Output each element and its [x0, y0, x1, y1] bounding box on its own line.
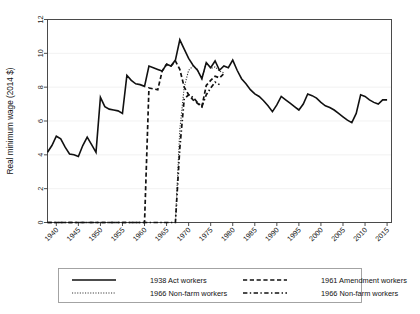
x-tick-label: 1985	[241, 226, 259, 244]
series-line-0	[48, 40, 388, 157]
chart-legend: 1938 Act workers1961 Amendment workers19…	[59, 269, 408, 303]
y-axis-ticks: 024681012	[36, 16, 47, 225]
x-axis-ticks: 1940194519501955196019651970197519801985…	[43, 223, 391, 244]
y-axis-title: Real minimum wage (2014 $)	[6, 67, 15, 174]
y-tick-label: 12	[36, 16, 45, 24]
legend-label-1: 1961 Amendment workers	[321, 276, 407, 285]
legend-label-0: 1938 Act workers	[150, 276, 207, 285]
x-tick-label: 1965	[153, 226, 171, 244]
x-tick-label: 1940	[43, 226, 61, 244]
x-tick-label: 1975	[197, 226, 215, 244]
y-tick-label: 8	[36, 85, 45, 89]
chart-figure: 024681012 194019451950195519601965197019…	[0, 0, 420, 314]
x-tick-label: 1955	[109, 226, 127, 244]
x-tick-label: 2010	[351, 226, 369, 244]
y-tick-label: 10	[36, 49, 45, 57]
y-tick-label: 6	[36, 119, 45, 123]
series-line-1	[48, 61, 224, 223]
x-tick-label: 2005	[329, 226, 347, 244]
x-tick-label: 1980	[219, 226, 237, 244]
x-tick-label: 2015	[373, 226, 391, 244]
y-tick-label: 0	[36, 221, 45, 225]
y-tick-label: 2	[36, 187, 45, 191]
series-line-3	[48, 82, 220, 222]
x-tick-label: 1950	[87, 226, 105, 244]
x-tick-label: 1945	[65, 226, 83, 244]
y-tick-label: 4	[36, 153, 45, 157]
x-tick-label: 1970	[175, 226, 193, 244]
legend-label-3: 1966 Non-farm workers	[321, 289, 399, 298]
series-line-2	[175, 63, 224, 223]
legend-label-2: 1966 Non-farm workers	[150, 289, 228, 298]
data-series-group	[48, 40, 388, 223]
x-tick-label: 1995	[285, 226, 303, 244]
x-tick-label: 1990	[263, 226, 281, 244]
x-tick-label: 2000	[307, 226, 325, 244]
x-tick-label: 1960	[131, 226, 149, 244]
minimum-wage-line-chart: 024681012 194019451950195519601965197019…	[0, 0, 420, 314]
